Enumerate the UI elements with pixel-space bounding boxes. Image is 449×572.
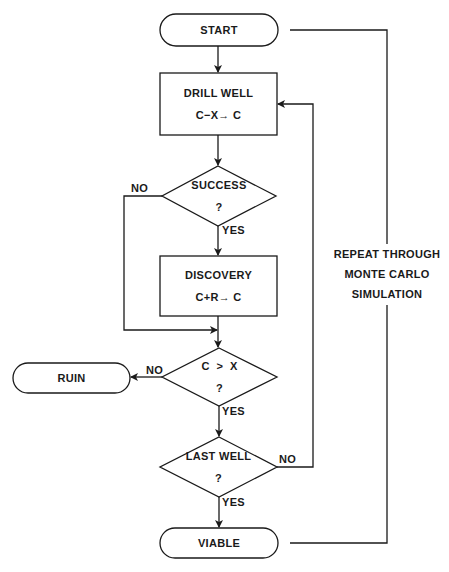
capital-check-label-wrap: C > X ? bbox=[162, 350, 277, 404]
viable-label: VIABLE bbox=[198, 537, 240, 550]
success-yes-label: YES bbox=[222, 224, 245, 236]
capital-no-label: NO bbox=[146, 364, 163, 376]
monte-carlo-loop-top bbox=[290, 30, 387, 244]
monte-carlo-loop-bottom bbox=[290, 305, 387, 543]
viable-label-wrap: VIABLE bbox=[160, 528, 278, 558]
capital-yes-label: YES bbox=[222, 405, 245, 417]
last-well-question: ? bbox=[215, 472, 222, 485]
drill-well-formula: C−X→ C bbox=[196, 109, 242, 122]
ruin-label: RUIN bbox=[57, 372, 85, 385]
discovery-formula: C+R→ C bbox=[195, 291, 241, 304]
success-label-wrap: SUCCESS ? bbox=[162, 168, 276, 224]
success-no-label: NO bbox=[131, 182, 148, 194]
discovery-label: DISCOVERY bbox=[185, 269, 252, 282]
drill-well-label-wrap: DRILL WELL C−X→ C bbox=[160, 73, 277, 135]
last-well-label: LAST WELL bbox=[186, 450, 252, 463]
monte-carlo-note: REPEAT THROUGH MONTE CARLO SIMULATION bbox=[333, 244, 441, 304]
last-well-label-wrap: LAST WELL ? bbox=[160, 439, 277, 495]
drill-well-label: DRILL WELL bbox=[184, 87, 253, 100]
success-question: ? bbox=[215, 201, 222, 214]
monte-carlo-note-line3: SIMULATION bbox=[333, 284, 441, 304]
success-label: SUCCESS bbox=[191, 179, 246, 192]
start-label: START bbox=[200, 24, 237, 37]
discovery-label-wrap: DISCOVERY C+R→ C bbox=[160, 256, 277, 316]
monte-carlo-note-line1: REPEAT THROUGH bbox=[333, 244, 441, 264]
capital-check-label: C > X bbox=[201, 360, 237, 373]
last-well-yes-label: YES bbox=[222, 496, 245, 508]
arrow-last-well-no-loop bbox=[277, 104, 313, 467]
ruin-label-wrap: RUIN bbox=[13, 363, 130, 393]
last-well-no-label: NO bbox=[279, 453, 296, 465]
capital-check-question: ? bbox=[216, 382, 223, 395]
start-label-wrap: START bbox=[160, 14, 278, 46]
monte-carlo-note-line2: MONTE CARLO bbox=[333, 264, 441, 284]
